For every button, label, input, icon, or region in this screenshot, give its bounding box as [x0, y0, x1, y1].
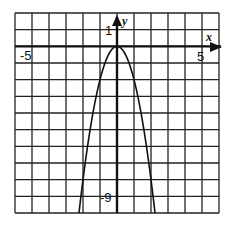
x-axis-label: x	[205, 30, 212, 44]
y-axis-arrow-icon	[112, 15, 122, 26]
x-tick-label-5: 5	[197, 49, 204, 64]
y-tick-label-neg9: -9	[100, 190, 112, 205]
parabola-graph: -5 5 1 -9 x y	[0, 0, 230, 231]
x-tick-label-neg5: -5	[20, 48, 32, 63]
y-tick-label-1: 1	[105, 23, 112, 38]
x-axis-arrow-icon	[210, 42, 222, 52]
